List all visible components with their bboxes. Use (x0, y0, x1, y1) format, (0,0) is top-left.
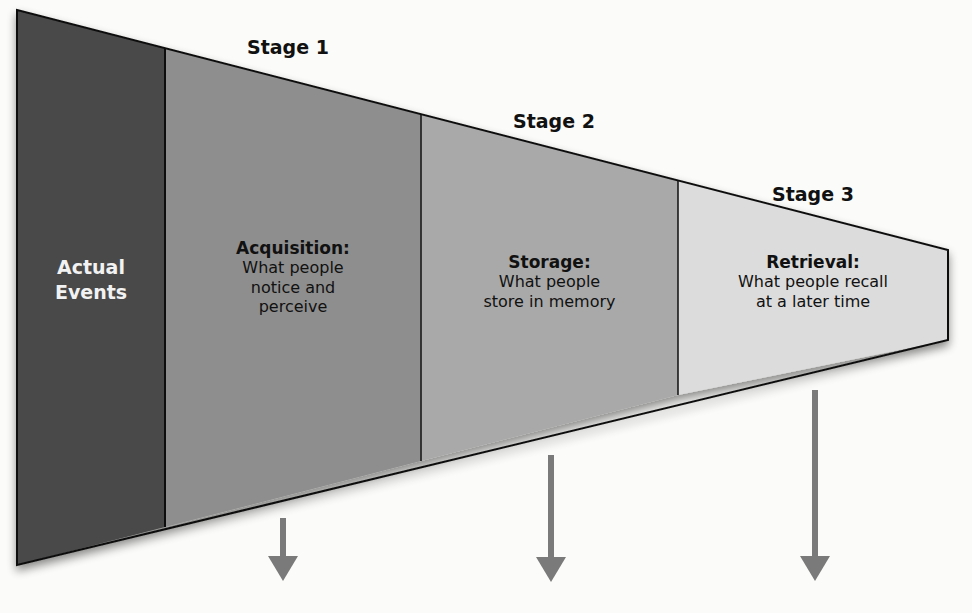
actual-events-label: Actual Events (17, 255, 165, 304)
storage-label: Storage: What people store in memory (421, 252, 678, 311)
storage-title: Storage: (421, 252, 678, 272)
stage-3-title: Stage 3 (772, 183, 854, 205)
stage-2-title: Stage 2 (513, 110, 595, 132)
acquisition-label: Acquisition: What people notice and perc… (165, 238, 421, 316)
retrieval-title: Retrieval: (678, 252, 948, 272)
retrieval-desc-line2: at a later time (678, 292, 948, 311)
storage-desc-line2: store in memory (421, 292, 678, 311)
arrow-down-icon (268, 518, 298, 581)
storage-desc-line1: What people (421, 272, 678, 291)
acquisition-title: Acquisition: (165, 238, 421, 258)
retrieval-desc-line1: What people recall (678, 272, 948, 291)
retrieval-label: Retrieval: What people recall at a later… (678, 252, 948, 311)
acquisition-desc-line3: perceive (165, 297, 421, 316)
arrow-down-icon (800, 390, 830, 581)
stage-1-title: Stage 1 (247, 36, 329, 58)
actual-events-line1: Actual (17, 255, 165, 280)
acquisition-desc-line1: What people (165, 258, 421, 277)
actual-events-line2: Events (17, 280, 165, 305)
arrow-down-icon (536, 455, 566, 582)
acquisition-desc-line2: notice and (165, 278, 421, 297)
